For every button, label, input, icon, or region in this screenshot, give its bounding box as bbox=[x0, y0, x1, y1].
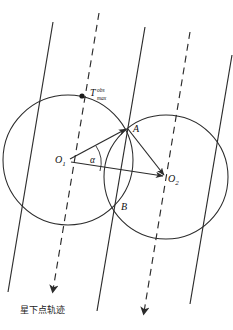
label-point-a: A bbox=[132, 123, 140, 134]
caption-subsatellite-track: 星下点轨迹 bbox=[20, 303, 65, 316]
svg-text:T: T bbox=[90, 87, 97, 98]
segment-o1-a bbox=[70, 129, 126, 159]
label-tmax-obs: T obs max bbox=[90, 87, 107, 101]
label-alpha: α bbox=[90, 155, 96, 165]
solid-track-3 bbox=[190, 55, 232, 304]
dashed-track-1 bbox=[53, 13, 99, 290]
segment-a-o2 bbox=[128, 129, 164, 175]
geometry-svg: O1 O2 A B α T obs max bbox=[0, 0, 233, 330]
ground-track-group bbox=[8, 13, 232, 312]
label-o1: O1 bbox=[55, 154, 66, 168]
solid-track-1 bbox=[8, 22, 53, 292]
dashed-track-2 bbox=[144, 32, 190, 312]
diagram-canvas: O1 O2 A B α T obs max 星下点轨迹 bbox=[0, 0, 233, 330]
label-o2: O2 bbox=[168, 173, 179, 187]
label-point-b: B bbox=[121, 201, 127, 212]
segment-o1-o2 bbox=[71, 162, 163, 176]
triangle-group bbox=[70, 129, 164, 176]
tmax-point bbox=[79, 93, 84, 98]
svg-text:obs: obs bbox=[97, 87, 105, 93]
svg-text:max: max bbox=[97, 95, 107, 101]
alpha-arc bbox=[96, 146, 101, 171]
